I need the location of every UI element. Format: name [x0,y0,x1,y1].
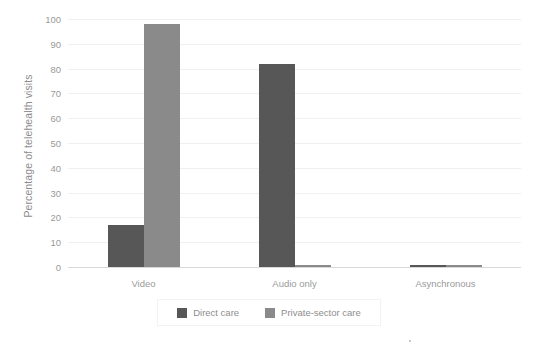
legend-item[interactable]: Private-sector care [265,307,361,318]
y-axis-tick-label: 0 [56,262,61,273]
y-axis-tick-label: 60 [50,113,61,124]
y-axis-tick-label: 70 [50,88,61,99]
bar-chart: Percentage of telehealth visits 01020304… [0,0,533,356]
bar [108,225,144,267]
bar-group: Video [108,19,180,267]
y-axis-tick-label: 50 [50,138,61,149]
bar-group: Asynchronous [410,19,482,267]
page-artifact-dot [409,340,411,342]
legend-swatch-icon [265,308,275,318]
chart-legend: Direct carePrivate-sector care [157,299,381,326]
y-axis-tick-label: 90 [50,38,61,49]
bar [446,265,482,267]
y-axis-title: Percentage of telehealth visits [22,36,34,256]
bar [295,265,331,267]
bar [410,265,446,267]
x-axis-tick-label: Audio only [225,278,365,289]
legend-label: Direct care [193,307,239,318]
gridline [68,267,521,268]
x-axis-tick-label: Asynchronous [376,278,516,289]
legend-item[interactable]: Direct care [177,307,239,318]
legend-swatch-icon [177,308,187,318]
y-axis-tick-label: 30 [50,187,61,198]
y-axis-tick-label: 20 [50,212,61,223]
y-axis-tick-label: 80 [50,63,61,74]
plot-area: 0102030405060708090100 VideoAudio onlyAs… [68,19,521,267]
x-axis-tick-label: Video [74,278,214,289]
bar-group: Audio only [259,19,331,267]
bar [259,64,295,267]
y-axis-tick-label: 40 [50,162,61,173]
y-axis-tick-label: 100 [45,14,61,25]
legend-label: Private-sector care [281,307,361,318]
y-axis-tick-label: 10 [50,237,61,248]
bars-layer: VideoAudio onlyAsynchronous [68,19,521,267]
bar [144,24,180,267]
